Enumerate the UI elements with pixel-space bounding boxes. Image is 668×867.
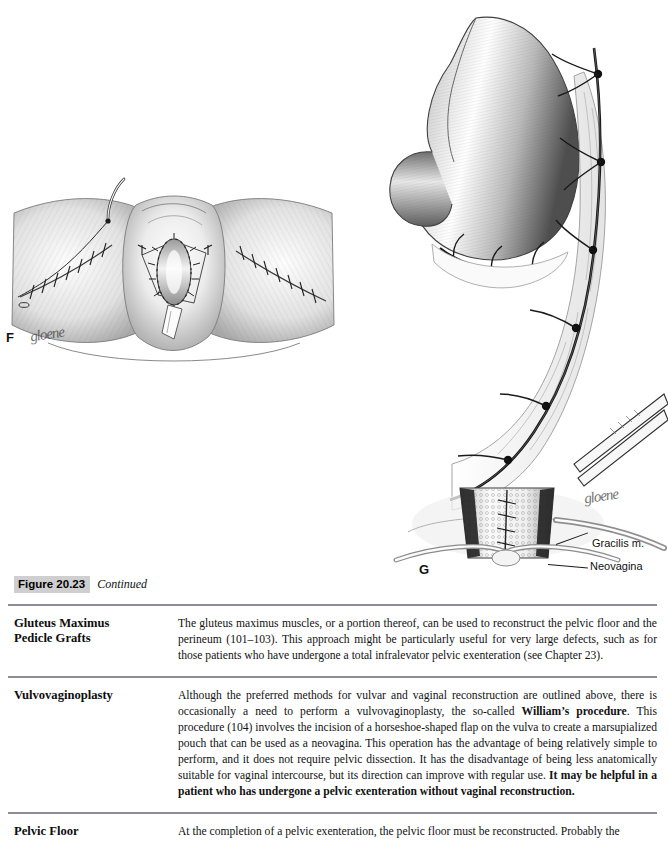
figure-caption: Figure 20.23 Continued <box>14 576 147 593</box>
panel-letter-g: G <box>419 562 429 577</box>
section-heading-vulvovaginoplasty: Vulvovaginoplasty <box>14 688 178 800</box>
section-vulvovaginoplasty: Vulvovaginoplasty Although the preferred… <box>0 678 665 812</box>
section-heading-gluteus-maximus: Gluteus Maximus Pedicle Grafts <box>14 616 178 664</box>
figure-number: Figure 20.23 <box>14 576 90 593</box>
heading-line-2: Pedicle Grafts <box>14 631 172 646</box>
panel-letter-f: F <box>6 330 14 345</box>
section-body-vulvovaginoplasty: Although the preferred methods for vulva… <box>178 688 657 800</box>
figure-caption-continued: Continued <box>97 577 147 592</box>
text-sections: Gluteus Maximus Pedicle Grafts The glute… <box>0 604 665 852</box>
section-heading-pelvic-floor: Pelvic Floor <box>14 824 178 840</box>
label-gracilis-muscle: Gracilis m. <box>592 537 644 549</box>
figure-illustration-area: F gloene <box>0 0 665 560</box>
label-neovagina: Neovagina <box>590 560 643 572</box>
panel-f-perineum-illustration <box>8 175 338 375</box>
section-body-pelvic-floor: At the completion of a pelvic exenterati… <box>178 824 657 840</box>
section-gluteus-maximus-pedicle-grafts: Gluteus Maximus Pedicle Grafts The glute… <box>0 606 665 676</box>
heading-line-1: Gluteus Maximus <box>14 616 172 631</box>
section-body-gluteus-maximus: The gluteus maximus muscles, or a portio… <box>178 616 657 664</box>
panel-g-bowel-pedicle-illustration <box>388 12 668 572</box>
section-pelvic-floor: Pelvic Floor At the completion of a pelv… <box>0 814 665 852</box>
